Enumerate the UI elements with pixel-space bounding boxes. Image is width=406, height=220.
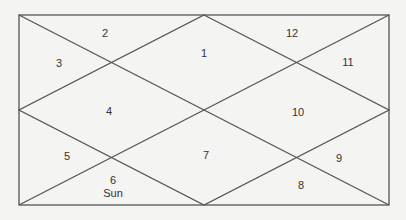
house-8: 8 [298, 179, 304, 192]
planet-sun: Sun [103, 187, 123, 200]
house-12: 12 [286, 27, 298, 40]
house-2: 2 [102, 27, 108, 40]
house-11: 11 [342, 56, 353, 69]
house-4: 4 [106, 105, 112, 118]
house-10: 10 [292, 106, 304, 119]
house-3: 3 [56, 57, 62, 70]
chart-lines [0, 0, 406, 220]
house-7: 7 [203, 149, 209, 162]
house-6: 6 Sun [103, 174, 123, 200]
house-9: 9 [336, 152, 342, 165]
house-5: 5 [64, 150, 70, 163]
house-1: 1 [201, 47, 207, 60]
